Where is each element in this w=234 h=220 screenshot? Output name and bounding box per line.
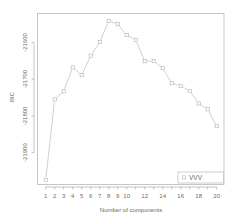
legend: VVV xyxy=(178,172,224,183)
data-point-square-icon xyxy=(116,23,119,26)
data-point-square-icon xyxy=(125,34,128,37)
series-line-segment xyxy=(137,42,144,59)
x-tick-label: 14 xyxy=(159,193,166,199)
legend-label: VVV xyxy=(189,174,203,181)
x-tick-label: 12 xyxy=(141,193,148,199)
data-point-square-icon xyxy=(215,125,218,128)
x-tick-label: 1 xyxy=(44,193,48,199)
series-line-segment xyxy=(129,36,134,39)
data-point-square-icon xyxy=(71,66,74,69)
data-point-square-icon xyxy=(188,89,191,92)
data-point-square-icon xyxy=(98,41,101,44)
data-point-square-icon xyxy=(197,102,200,105)
x-tick-label: 7 xyxy=(98,193,102,199)
series-line-segment xyxy=(56,93,61,98)
x-axis-title: Number of components xyxy=(100,207,162,213)
x-tick-label: 5 xyxy=(80,193,84,199)
series-line-segment xyxy=(92,44,98,54)
y-tick-label: -21900 xyxy=(22,143,28,162)
data-point-square-icon xyxy=(62,90,65,93)
series-line-segment xyxy=(156,63,161,67)
series-line-segment xyxy=(183,87,188,90)
x-axis: 123456789101214161820 xyxy=(44,187,221,199)
series-line-segment xyxy=(119,26,125,33)
data-point-square-icon xyxy=(170,82,173,85)
data-point-square-icon xyxy=(179,84,182,87)
data-point-square-icon xyxy=(44,178,47,181)
series-line-segment xyxy=(46,102,54,178)
data-point-square-icon xyxy=(53,98,56,101)
x-tick-label: 2 xyxy=(53,193,57,199)
x-tick-label: 10 xyxy=(123,193,130,199)
series-line-segment xyxy=(191,93,197,102)
data-point-square-icon xyxy=(143,60,146,63)
bic-chart: 123456789101214161820 -21600-21700-21800… xyxy=(0,0,234,220)
data-series xyxy=(44,19,218,181)
x-tick-label: 18 xyxy=(195,193,202,199)
series-line-segment xyxy=(83,58,90,73)
x-tick-label: 3 xyxy=(62,193,66,199)
x-tick-label: 9 xyxy=(116,193,120,199)
x-tick-label: 6 xyxy=(89,193,93,199)
series-line-segment xyxy=(209,111,216,124)
x-tick-label: 8 xyxy=(107,193,111,199)
series-line-segment xyxy=(111,22,115,24)
y-axis: -21600-21700-21800-21900 xyxy=(22,32,34,161)
x-tick-label: 16 xyxy=(177,193,184,199)
series-line-segment xyxy=(65,70,72,89)
series-line-segment xyxy=(201,105,206,108)
data-point-square-icon xyxy=(80,74,83,77)
series-line-segment xyxy=(164,70,171,81)
data-point-square-icon xyxy=(161,67,164,70)
series-line-segment xyxy=(101,23,108,40)
data-point-square-icon xyxy=(89,54,92,57)
y-axis-title: BIC xyxy=(9,91,15,102)
x-tick-label: 20 xyxy=(213,193,220,199)
series-line-segment xyxy=(174,84,178,85)
data-point-square-icon xyxy=(107,19,110,22)
data-point-square-icon xyxy=(134,38,137,41)
data-point-square-icon xyxy=(152,60,155,63)
x-tick-label: 4 xyxy=(71,193,75,199)
y-tick-label: -21700 xyxy=(22,69,28,88)
series-line-segment xyxy=(75,69,80,74)
y-tick-label: -21800 xyxy=(22,106,28,125)
data-point-square-icon xyxy=(206,108,209,111)
y-tick-label: -21600 xyxy=(22,32,28,51)
plot-frame xyxy=(38,14,225,185)
